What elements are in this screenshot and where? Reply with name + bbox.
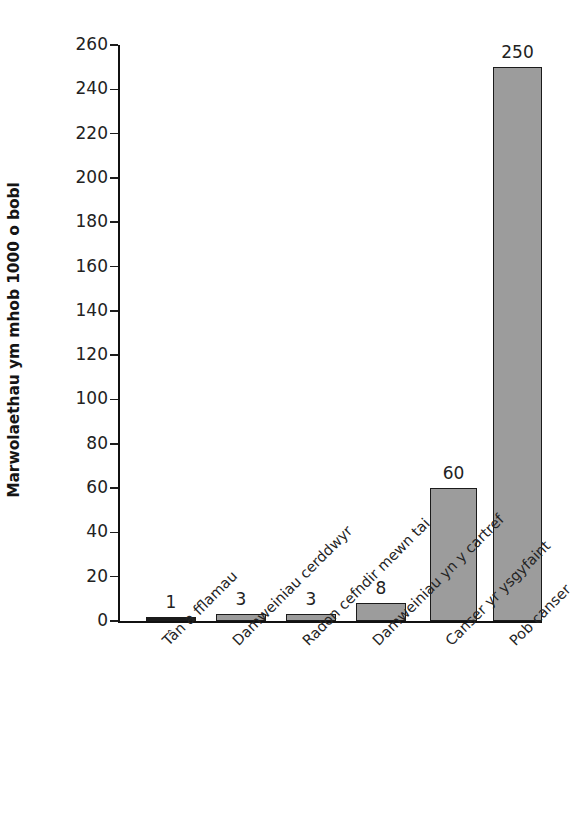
y-axis-title: Marwolaethau ym mhob 1000 o bobl [0, 51, 30, 629]
y-axis-tick-label: 100 [38, 388, 108, 408]
y-axis-tick [110, 177, 118, 179]
y-axis-tick-label: 120 [38, 344, 108, 364]
y-axis-tick-label: 240 [38, 78, 108, 98]
y-axis-tick-label: 260 [38, 34, 108, 54]
y-axis-tick-label: 160 [38, 256, 108, 276]
y-axis-tick [110, 354, 118, 356]
y-axis-tick [110, 576, 118, 578]
y-axis-tick-label: 40 [38, 521, 108, 541]
y-axis-tick [110, 44, 118, 46]
bar-value-label: 250 [481, 42, 554, 62]
y-axis-tick-label: 140 [38, 300, 108, 320]
y-axis-tick [110, 487, 118, 489]
y-axis-tick [110, 532, 118, 534]
y-axis-tick [110, 133, 118, 135]
y-axis-tick [110, 620, 118, 622]
bar[interactable] [493, 67, 542, 621]
y-axis-tick [110, 266, 118, 268]
y-axis-tick [110, 443, 118, 445]
y-axis-tick-label: 180 [38, 211, 108, 231]
y-axis-tick [110, 89, 118, 91]
y-axis-tick-label: 20 [38, 566, 108, 586]
y-axis-tick [110, 310, 118, 312]
y-axis-tick-label: 80 [38, 433, 108, 453]
y-axis-line [118, 45, 120, 623]
y-axis-tick-label: 200 [38, 167, 108, 187]
y-axis-tick [110, 221, 118, 223]
y-axis-tick-label: 220 [38, 123, 108, 143]
y-axis-tick [110, 399, 118, 401]
bar-value-label: 60 [418, 463, 489, 483]
y-axis-tick-label: 60 [38, 477, 108, 497]
y-axis-tick-label: 0 [38, 610, 108, 630]
